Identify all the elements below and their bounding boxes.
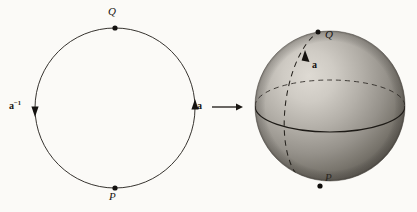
sphere-diagram — [255, 30, 405, 189]
sphere-rim-shadow — [255, 31, 405, 181]
circle-label-a: a — [197, 101, 202, 111]
maps-to-arrow — [212, 104, 243, 111]
circle-label-P: P — [109, 191, 116, 202]
figure-container: Q P a a−1 Q P a — [0, 0, 417, 212]
sphere-label-Q: Q — [325, 29, 333, 40]
sphere-label-P: P — [325, 172, 332, 183]
sphere-point-P — [317, 183, 322, 188]
circle-point-Q — [112, 25, 117, 30]
a-inverse-superscript: −1 — [14, 99, 21, 106]
circle-diagram — [31, 25, 198, 190]
circle-label-a-inverse: a−1 — [9, 101, 21, 111]
maps-to-arrow-head — [236, 104, 243, 111]
sphere-label-a: a — [312, 60, 317, 70]
circle-arrowhead-a-inverse — [31, 107, 38, 118]
sphere-point-Q — [316, 30, 321, 35]
circle-outline — [35, 28, 195, 188]
circle-label-Q: Q — [108, 6, 116, 17]
figure-canvas — [0, 0, 417, 212]
